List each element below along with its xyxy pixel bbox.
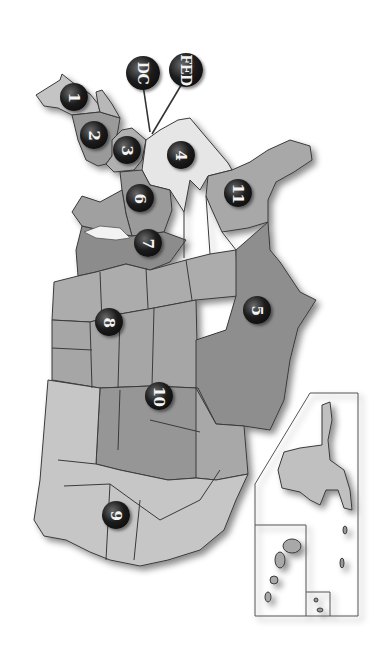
region-hawaii[interactable] (265, 539, 301, 602)
circuit-marker-label: 9 (109, 510, 124, 520)
circuit-marker-c7[interactable]: 7 (134, 229, 162, 257)
circuit-marker-label: 10 (152, 386, 167, 406)
circuit-marker-dc[interactable]: DC (126, 56, 160, 90)
circuit-marker-label: 6 (133, 193, 148, 203)
circuit-marker-label: 1 (67, 92, 82, 102)
circuit-marker-label: 3 (120, 145, 135, 155)
circuit-marker-fed[interactable]: FED (169, 53, 203, 87)
circuit-marker-label: 7 (141, 238, 156, 248)
circuit-marker-c9[interactable]: 9 (102, 501, 130, 529)
circuit-marker-label: 2 (87, 130, 102, 140)
circuit-marker-c5[interactable]: 5 (243, 296, 271, 324)
circuit-marker-c11[interactable]: 11 (224, 179, 252, 207)
circuit-map (0, 0, 380, 660)
circuit-marker-c2[interactable]: 2 (80, 121, 108, 149)
circuit-marker-label: 11 (231, 183, 246, 203)
circuit-marker-c3[interactable]: 3 (113, 136, 141, 164)
circuit-marker-label: 5 (250, 305, 265, 315)
circuit-marker-label: FED (179, 54, 193, 85)
circuit-marker-label: 8 (102, 317, 117, 327)
region-alaska[interactable] (278, 402, 352, 510)
circuit-marker-c1[interactable]: 1 (60, 83, 88, 111)
circuit-marker-c10[interactable]: 10 (145, 382, 173, 410)
region-circuit-11[interactable] (206, 140, 312, 232)
circuit-marker-label: DC (136, 62, 150, 84)
circuit-marker-c8[interactable]: 8 (95, 308, 123, 336)
circuit-marker-label: 4 (174, 150, 189, 160)
circuit-marker-c4[interactable]: 4 (167, 141, 195, 169)
circuit-marker-c6[interactable]: 6 (126, 184, 154, 212)
